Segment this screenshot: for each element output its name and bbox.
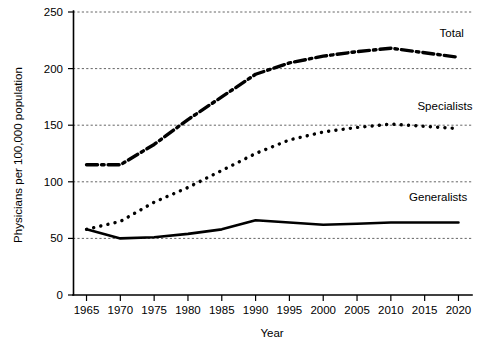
y-tick-marks-group [68,12,73,295]
series-line-specialists [87,124,459,229]
x-tick-label-1975: 1975 [141,304,167,316]
x-tick-labels-group: 1965197019751980198519901995200020052010… [74,304,472,316]
x-tick-label-1995: 1995 [277,304,303,316]
y-tick-label-250: 250 [44,6,63,18]
x-tick-label-1985: 1985 [209,304,235,316]
physicians-supply-line-chart: 250 200 150 100 50 0 1965197019751980198… [0,0,488,352]
y-tick-label-150: 150 [44,119,63,131]
x-tick-label-2015: 2015 [412,304,438,316]
y-tick-label-100: 100 [44,176,63,188]
y-axis-title: Physicians per 100,000 population [12,67,24,243]
x-tick-label-2010: 2010 [378,304,404,316]
x-tick-marks-group [87,295,459,301]
y-tick-label-50: 50 [50,232,63,244]
x-tick-label-2000: 2000 [310,304,336,316]
x-tick-label-1965: 1965 [74,304,100,316]
x-tick-label-1970: 1970 [108,304,134,316]
series-label-specialists: Specialists [417,100,472,112]
axes-group [73,11,472,295]
series-label-total: Total [440,27,464,39]
x-tick-label-1990: 1990 [243,304,269,316]
y-tick-label-200: 200 [44,63,63,75]
series-line-generalists [87,220,459,238]
x-tick-label-2005: 2005 [344,304,370,316]
series-group [87,48,459,238]
gridlines-group [73,12,472,238]
chart-svg: 250 200 150 100 50 0 1965197019751980198… [0,0,488,352]
x-axis-title: Year [260,327,283,339]
y-tick-label-0: 0 [57,289,63,301]
x-tick-label-1980: 1980 [175,304,201,316]
x-tick-label-2020: 2020 [446,304,472,316]
series-label-generalists: Generalists [409,191,467,203]
y-tick-labels-group: 250 200 150 100 50 0 [44,6,63,301]
